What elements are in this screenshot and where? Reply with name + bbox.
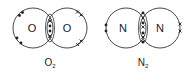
left-o-label: O — [28, 22, 37, 34]
n2-diagram: N N N2 — [105, 8, 182, 69]
right-n-label: N — [156, 22, 164, 34]
o2-right-lone-pairs — [76, 11, 83, 47]
o2-shared-electrons — [48, 19, 51, 37]
o2-formula-label: O2 — [44, 57, 56, 69]
right-o-label: O — [63, 22, 72, 34]
left-n-label: N — [119, 22, 127, 34]
dot-electron — [49, 25, 52, 28]
dot-cross-diagrams: O O O2 N N — [0, 0, 189, 74]
cross-electron — [48, 19, 51, 22]
o2-diagram: O O O2 — [13, 8, 87, 69]
n2-formula-label: N2 — [138, 57, 149, 69]
dot-electron — [49, 30, 52, 33]
